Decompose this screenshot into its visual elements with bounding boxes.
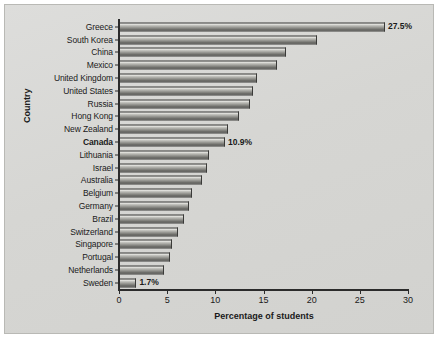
bar-row: Netherlands: [119, 263, 408, 276]
bar: [120, 150, 209, 159]
category-label: China: [91, 48, 113, 57]
category-label: Canada: [83, 138, 113, 147]
category-tick: [115, 90, 119, 91]
category-tick: [115, 65, 119, 66]
category-tick: [115, 257, 119, 258]
bar-row: Mexico: [119, 58, 408, 71]
x-tick-mark: [264, 289, 265, 294]
category-label: Netherlands: [68, 266, 113, 275]
category-label: Belgium: [83, 189, 113, 198]
bar: [120, 214, 184, 223]
category-label: Singapore: [75, 240, 113, 249]
category-label: Israel: [93, 163, 113, 172]
bar: [120, 202, 189, 211]
bar-row: Greece27.5%: [119, 20, 408, 33]
x-axis-title: Percentage of students: [119, 312, 409, 321]
x-tick-label: 15: [258, 296, 268, 305]
category-tick: [115, 218, 119, 219]
x-tick-label: 20: [307, 296, 317, 305]
category-label: New Zealand: [64, 125, 113, 134]
x-tick-mark: [167, 289, 168, 294]
bar-row: Switzerland: [119, 225, 408, 238]
bar: [120, 176, 202, 185]
category-tick: [115, 129, 119, 130]
bar: [120, 86, 253, 95]
x-tick-mark: [408, 289, 409, 294]
bar: [120, 48, 286, 57]
category-tick: [115, 154, 119, 155]
category-tick: [115, 206, 119, 207]
bar: 1.7%: [120, 278, 136, 287]
x-tick-label: 25: [355, 296, 365, 305]
x-tick-label: 10: [210, 296, 220, 305]
bar-row: Belgium: [119, 187, 408, 200]
x-tick-mark: [119, 289, 120, 294]
bar-row: United States: [119, 84, 408, 97]
bar-row: Germany: [119, 199, 408, 212]
category-label: Mexico: [87, 61, 113, 70]
category-label: Switzerland: [70, 227, 113, 236]
x-tick-mark: [360, 289, 361, 294]
bar: 10.9%: [120, 138, 225, 147]
bar: [120, 253, 170, 262]
chart-panel: Country Greece27.5%South KoreaChinaMexic…: [4, 4, 434, 334]
plot-area: Greece27.5%South KoreaChinaMexicoUnited …: [119, 20, 408, 289]
bar: [120, 240, 172, 249]
bar: [120, 266, 164, 275]
bar-row: Portugal: [119, 251, 408, 264]
category-tick: [115, 142, 119, 143]
category-tick: [115, 39, 119, 40]
bar: [120, 73, 257, 82]
bar: [120, 227, 178, 236]
category-tick: [115, 103, 119, 104]
category-tick: [115, 52, 119, 53]
category-label: Sweden: [83, 279, 113, 288]
category-label: Portugal: [82, 253, 113, 262]
category-tick: [115, 180, 119, 181]
bar-row: Hong Kong: [119, 110, 408, 123]
bar-row: Canada10.9%: [119, 135, 408, 148]
x-tick-label: 0: [116, 296, 121, 305]
category-label: Greece: [86, 22, 113, 31]
category-label: Lithuania: [79, 151, 113, 160]
category-tick: [115, 193, 119, 194]
category-tick: [115, 244, 119, 245]
category-label: Germany: [79, 202, 113, 211]
category-label: United Kingdom: [54, 74, 113, 83]
x-tick-mark: [215, 289, 216, 294]
chart-figure: Country Greece27.5%South KoreaChinaMexic…: [0, 0, 438, 340]
category-tick: [115, 77, 119, 78]
bar-row: South Korea: [119, 33, 408, 46]
bar-row: Singapore: [119, 238, 408, 251]
bar-value-label: 10.9%: [228, 138, 252, 147]
bar-value-label: 1.7%: [139, 279, 158, 288]
x-tick-label: 30: [403, 296, 413, 305]
category-label: Australia: [81, 176, 113, 185]
category-label: Hong Kong: [71, 112, 113, 121]
bar-row: China: [119, 46, 408, 59]
bar-row: Russia: [119, 97, 408, 110]
category-label: Brazil: [92, 215, 113, 224]
bar-row: Lithuania: [119, 148, 408, 161]
bar-row: Sweden1.7%: [119, 276, 408, 289]
category-label: South Korea: [67, 35, 113, 44]
bar: [120, 99, 250, 108]
category-label: Russia: [88, 99, 113, 108]
category-tick: [115, 282, 119, 283]
category-tick: [115, 116, 119, 117]
x-tick-mark: [312, 289, 313, 294]
bar: [120, 163, 207, 172]
category-tick: [115, 26, 119, 27]
category-label: United States: [63, 87, 113, 96]
x-tick-label: 5: [165, 296, 170, 305]
category-tick: [115, 231, 119, 232]
bar: [120, 61, 277, 70]
bar: [120, 125, 228, 134]
bar: [120, 189, 192, 198]
bar: 27.5%: [120, 22, 385, 31]
category-tick: [115, 167, 119, 168]
bar-row: Australia: [119, 174, 408, 187]
category-tick: [115, 270, 119, 271]
bar: [120, 35, 317, 44]
bar-row: Israel: [119, 161, 408, 174]
